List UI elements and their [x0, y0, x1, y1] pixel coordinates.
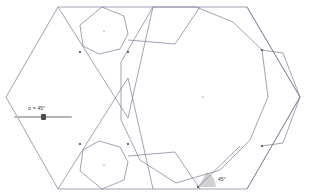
angle-label-45: 45°	[218, 176, 226, 182]
alpha-slider-label: α = 45°	[28, 105, 46, 111]
outer-hexagon	[6, 7, 300, 189]
center-point-top	[103, 30, 104, 31]
chevron-lower-left	[58, 78, 153, 189]
central-polygon	[121, 7, 268, 183]
chevron-upper-left	[58, 7, 153, 118]
vertex-a	[79, 51, 81, 53]
vertex-c	[79, 143, 81, 145]
center-point-bottom	[103, 164, 104, 165]
edge-right-upper	[262, 50, 300, 97]
center-points	[103, 30, 203, 165]
vertex-points	[79, 49, 263, 188]
chevron-upper-right	[247, 7, 300, 189]
edge-right-lower	[262, 97, 300, 146]
geometry-svg	[0, 0, 318, 196]
vertex-f	[261, 145, 263, 147]
edge-upper-diagonal	[128, 7, 200, 44]
vertex-d	[127, 143, 129, 145]
vertex-b	[127, 51, 129, 53]
vertex-e	[261, 49, 263, 51]
center-point-main	[202, 96, 203, 97]
alpha-slider[interactable]: α = 45°	[14, 105, 72, 125]
alpha-slider-handle[interactable]	[41, 114, 46, 120]
geometry-canvas-area: 45° α = 45°	[0, 0, 318, 196]
vertex-g	[197, 186, 199, 188]
